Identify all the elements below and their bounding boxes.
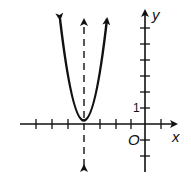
origin-label: O bbox=[128, 131, 140, 148]
coordinate-plane: y x O 1 bbox=[0, 0, 191, 184]
x-axis-label: x bbox=[171, 128, 180, 145]
y-tick-label-1: 1 bbox=[133, 101, 140, 115]
y-axis-label: y bbox=[151, 6, 161, 23]
